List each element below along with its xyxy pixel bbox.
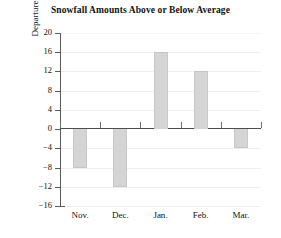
x-tick-label: Dec. (97, 210, 143, 220)
y-tick-label-text: −4 (26, 143, 52, 152)
gridline (60, 206, 261, 207)
bar-mar (234, 129, 248, 148)
bar-jan (154, 52, 168, 129)
x-tick-mark (221, 122, 222, 128)
x-tick-label: Nov. (57, 210, 103, 220)
x-tick-mark (100, 122, 101, 128)
y-tick-label: 12 (26, 66, 52, 76)
y-tick-label: −16 (26, 201, 52, 211)
y-tick-label-text: 20 (26, 28, 52, 37)
y-tick-label-text: 12 (26, 66, 52, 75)
y-tick-mark (55, 168, 60, 169)
y-tick-mark (55, 148, 60, 149)
y-tick-label: 0 (26, 124, 52, 134)
y-tick-mark (55, 33, 60, 34)
y-tick-label: −12 (26, 182, 52, 192)
y-tick-mark (55, 129, 60, 130)
x-tick-label: Mar. (218, 210, 264, 220)
gridline (60, 168, 261, 169)
x-tick-label: Jan. (138, 210, 184, 220)
bar-feb (194, 71, 208, 129)
y-tick-label-text: 4 (26, 105, 52, 114)
y-tick-mark (55, 206, 60, 207)
gridline (60, 33, 261, 34)
bar-dec (113, 129, 127, 187)
y-tick-label: 8 (26, 86, 52, 96)
y-tick-mark (55, 187, 60, 188)
y-tick-mark (55, 91, 60, 92)
y-tick-mark (55, 110, 60, 111)
y-tick-label-text: 16 (26, 47, 52, 56)
y-tick-label: 20 (26, 28, 52, 38)
gridline (60, 187, 261, 188)
y-tick-mark (55, 71, 60, 72)
y-axis-spine (60, 33, 61, 207)
y-tick-label-text: −16 (26, 201, 52, 210)
y-tick-label: −4 (26, 143, 52, 153)
x-tick-mark (140, 122, 141, 128)
x-tick-mark (181, 122, 182, 128)
x-tick-mark (261, 122, 262, 128)
bar-nov (73, 129, 87, 167)
y-tick-label-text: −12 (26, 182, 52, 191)
y-tick-mark (55, 52, 60, 53)
snowfall-bar-chart: Snowfall Amounts Above or Below Average … (0, 0, 281, 238)
x-tick-mark (60, 122, 61, 128)
y-tick-label: −8 (26, 163, 52, 173)
gridline (60, 148, 261, 149)
y-tick-label: 16 (26, 47, 52, 57)
y-axis-foot (60, 206, 65, 207)
y-tick-label-text: 0 (26, 124, 52, 133)
x-tick-label: Feb. (178, 210, 224, 220)
y-tick-label-text: −8 (26, 163, 52, 172)
y-tick-label-text: 8 (26, 86, 52, 95)
y-tick-label: 4 (26, 105, 52, 115)
